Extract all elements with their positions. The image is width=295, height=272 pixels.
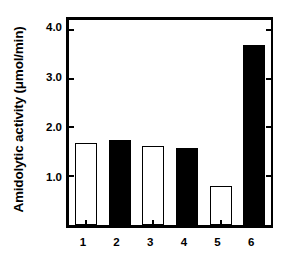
y-axis-label: Amidolytic activity (μmol/min): [11, 20, 26, 220]
y-tick-mark: [69, 29, 74, 31]
y-tick-mark: [69, 175, 74, 177]
y-tick-label: 1.0: [28, 171, 62, 183]
y-tick-label: 4.0: [28, 21, 62, 33]
x-tick-mark: [152, 220, 154, 225]
y-tick-mark: [69, 78, 74, 80]
x-tick-mark: [119, 220, 121, 225]
x-tick-label: 1: [68, 236, 98, 248]
y-tick-label: 3.0: [28, 71, 62, 83]
y-tick-mark: [266, 29, 271, 31]
y-tick-mark: [266, 175, 271, 177]
plot-area: [66, 17, 273, 228]
x-axis-tick-labels: 123456: [66, 236, 273, 260]
x-tick-label: 4: [169, 236, 199, 248]
y-tick-mark: [266, 78, 271, 80]
y-tick-label: 2.0: [28, 121, 62, 133]
bar-4: [176, 148, 198, 225]
x-tick-label: 5: [203, 236, 233, 248]
x-tick-label: 2: [102, 236, 132, 248]
bar-6: [243, 45, 265, 225]
bar-3: [142, 146, 164, 225]
x-tick-mark: [253, 220, 255, 225]
x-tick-label: 6: [236, 236, 266, 248]
y-tick-mark: [69, 126, 74, 128]
x-tick-mark: [186, 220, 188, 225]
y-tick-mark: [266, 126, 271, 128]
y-axis-tick-labels: 4.0 3.0 2.0 1.0: [28, 0, 62, 272]
bar-1: [75, 143, 97, 225]
x-tick-mark: [220, 220, 222, 225]
x-tick-label: 3: [135, 236, 165, 248]
chart-figure: Amidolytic activity (μmol/min) 4.0 3.0 2…: [0, 0, 295, 272]
bar-series: [69, 20, 271, 225]
bar-2: [109, 140, 131, 225]
x-tick-mark: [85, 220, 87, 225]
